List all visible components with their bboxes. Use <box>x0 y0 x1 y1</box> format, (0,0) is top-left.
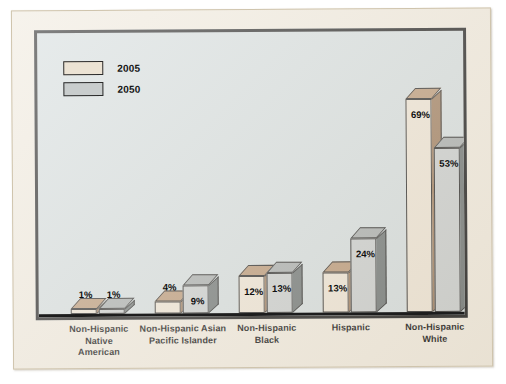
bar-value-label: 4% <box>157 281 183 292</box>
legend-label-2050: 2050 <box>117 83 140 94</box>
category-label-4: Non-HispanicWhite <box>383 322 487 346</box>
category-label-line: White <box>383 333 487 345</box>
chart-frame: 2005 2050 1%1%4%9%12%13%13%24%69%53% <box>34 28 468 321</box>
legend-swatch-2050 <box>63 82 103 96</box>
bar-group: 13%24% <box>321 31 385 315</box>
bar-value-label: 12% <box>241 286 267 297</box>
bar-value-label: 1% <box>73 289 99 300</box>
legend-item-2050: 2050 <box>63 82 140 96</box>
bar-group: 12%13% <box>237 32 301 316</box>
bar-2005-1[interactable] <box>155 301 181 314</box>
bar-2050-4[interactable] <box>434 148 461 312</box>
category-label-line: American <box>47 347 151 359</box>
bar-value-label: 1% <box>101 289 127 300</box>
category-label-line: Non-Hispanic <box>383 322 487 334</box>
bar-value-label: 53% <box>436 158 462 169</box>
bar-side-face <box>376 229 386 312</box>
bar-value-label: 13% <box>325 282 351 293</box>
legend-label-2005: 2005 <box>117 62 140 73</box>
plot-area: 2005 2050 1%1%4%9%12%13%13%24%69%53% <box>37 31 465 318</box>
legend-item-2005: 2005 <box>63 61 140 75</box>
bar-front-face <box>405 98 432 312</box>
bar-group: 4%9% <box>153 32 217 316</box>
bar-front-face <box>434 148 461 312</box>
bar-value-label: 24% <box>352 248 378 259</box>
chart-legend: 2005 2050 <box>63 61 140 103</box>
chart-card: 2005 2050 1%1%4%9%12%13%13%24%69%53% Non… <box>11 8 493 370</box>
bar-2005-4[interactable] <box>405 98 432 312</box>
page: 2005 2050 1%1%4%9%12%13%13%24%69%53% Non… <box>0 0 506 384</box>
category-labels: Non-HispanicNativeAmericanNon-Hispanic A… <box>36 322 468 371</box>
legend-swatch-2005 <box>63 61 103 75</box>
bar-value-label: 69% <box>408 108 434 119</box>
category-label-line: Black <box>215 334 319 346</box>
bar-value-label: 13% <box>269 283 295 294</box>
bar-value-label: 9% <box>185 295 211 306</box>
bar-front-face <box>155 301 181 314</box>
bar-group: 69%53% <box>405 31 465 315</box>
